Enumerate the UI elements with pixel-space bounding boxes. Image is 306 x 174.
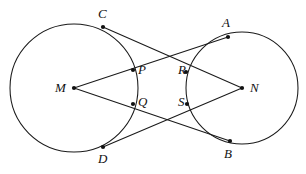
- point-label-p: P: [138, 63, 146, 76]
- point-label-b: B: [224, 147, 232, 160]
- point-label-q: Q: [138, 95, 147, 108]
- point-dot-b: [228, 139, 232, 143]
- segment-m-to-b: [74, 88, 230, 141]
- point-label-m: M: [55, 81, 66, 94]
- point-dot-p: [131, 68, 135, 72]
- point-dot-q: [131, 102, 135, 106]
- geometry-figure: C A M N P R Q S D B: [0, 0, 306, 174]
- point-dot-a: [226, 35, 230, 39]
- point-dot-s: [185, 102, 189, 106]
- segments-group: [74, 27, 242, 147]
- point-label-r: R: [178, 63, 186, 76]
- point-dot-n: [240, 86, 244, 90]
- figure-canvas: [0, 0, 306, 174]
- vertex-dots-group: [72, 25, 244, 149]
- point-label-c: C: [98, 7, 107, 20]
- point-label-n: N: [250, 81, 259, 94]
- point-dot-d: [101, 145, 105, 149]
- point-dot-m: [72, 86, 76, 90]
- point-label-a: A: [222, 16, 230, 29]
- point-dot-c: [101, 25, 105, 29]
- point-label-d: D: [98, 152, 107, 165]
- point-label-s: S: [178, 95, 185, 108]
- segment-m-to-a: [74, 37, 228, 88]
